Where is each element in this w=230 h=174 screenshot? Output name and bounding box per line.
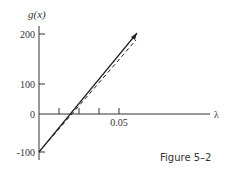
chart-figure: g(x) 200 100 0 -100 0.05 λ	[0, 0, 230, 174]
y-tick-label-0: 0	[30, 109, 35, 120]
y-axis-title: g(x)	[28, 8, 46, 21]
figure-caption: Figure 5–2	[160, 152, 211, 163]
x-tick-label-005: 0.05	[110, 117, 128, 128]
y-tick-label-200: 200	[20, 29, 35, 40]
y-tick-label-minus100: -100	[17, 147, 35, 158]
series-dashed-line	[39, 40, 136, 152]
x-axis-title: λ	[214, 109, 219, 120]
series-solid-line	[39, 33, 137, 152]
y-tick-label-100: 100	[20, 79, 35, 90]
